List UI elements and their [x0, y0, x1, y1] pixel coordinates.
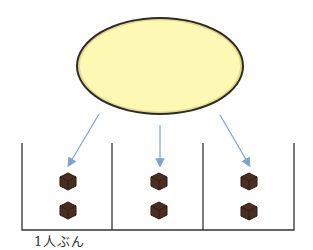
cube-icon	[60, 173, 76, 190]
arrow-right	[220, 115, 248, 163]
cube-icon	[241, 173, 257, 190]
arrows	[70, 114, 248, 163]
cube-icon	[151, 173, 167, 190]
distribution-diagram	[0, 0, 313, 250]
cube-icon	[60, 202, 76, 219]
cube-icon	[151, 202, 167, 219]
per-person-label: 1人ぶん	[34, 231, 85, 250]
cube-icon	[241, 203, 257, 220]
source-ellipse	[76, 17, 244, 115]
arrow-left	[70, 114, 99, 163]
cubes	[60, 173, 257, 220]
